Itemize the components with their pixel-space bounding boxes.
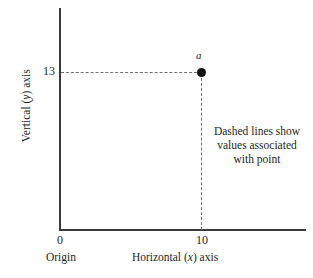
origin-label: Origin [36,252,86,264]
annotation-line-3: with point [205,152,309,166]
vertical-axis-line [59,8,61,231]
horizontal-axis-title: Horizontal (x) axis [112,252,238,264]
dashed-vertical-guide [201,73,202,230]
vertical-axis-title-suffix: ) axis [20,69,32,94]
vertical-axis-title-prefix: Vertical ( [20,100,32,142]
x-axis-tick-label-10: 10 [182,234,222,246]
annotation-line-2: values associated [205,138,309,152]
data-point-marker-a [197,68,206,77]
y-axis-tick-label-13: 13 [33,65,55,77]
vertical-axis-variable: y [20,95,32,100]
coordinate-plane-figure: a 13 10 0 Origin Vertical (y) axis Horiz… [0,0,313,278]
horizontal-axis-title-suffix: ) axis [193,251,218,263]
data-point-label-a: a [196,50,202,61]
vertical-axis-title: Vertical (y) axis [21,51,33,161]
dashed-horizontal-guide [61,72,202,73]
annotation-line-1: Dashed lines show [205,124,309,138]
origin-tick-label-zero: 0 [49,234,71,246]
horizontal-axis-line [59,229,306,231]
annotation-text-block: Dashed lines show values associated with… [205,124,309,166]
horizontal-axis-title-prefix: Horizontal ( [132,251,188,263]
